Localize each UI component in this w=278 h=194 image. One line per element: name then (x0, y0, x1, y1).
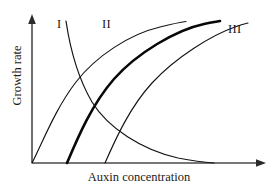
curve-label-2: II (102, 18, 111, 31)
curve-series-3 (105, 23, 248, 163)
y-axis-arrow-icon (28, 14, 36, 24)
auxin-growth-rate-figure: I II III Auxin concentration Growth rate (0, 0, 278, 194)
x-axis-title: Auxin concentration (0, 170, 278, 185)
curve-label-1: I (57, 18, 61, 31)
curve-series-2 (67, 21, 220, 163)
curve-series-1 (32, 22, 186, 164)
y-axis-title: Growth rate (10, 28, 25, 124)
x-axis-arrow-icon (256, 159, 266, 167)
curve-label-3: III (228, 23, 241, 36)
curve-descending (66, 21, 214, 163)
